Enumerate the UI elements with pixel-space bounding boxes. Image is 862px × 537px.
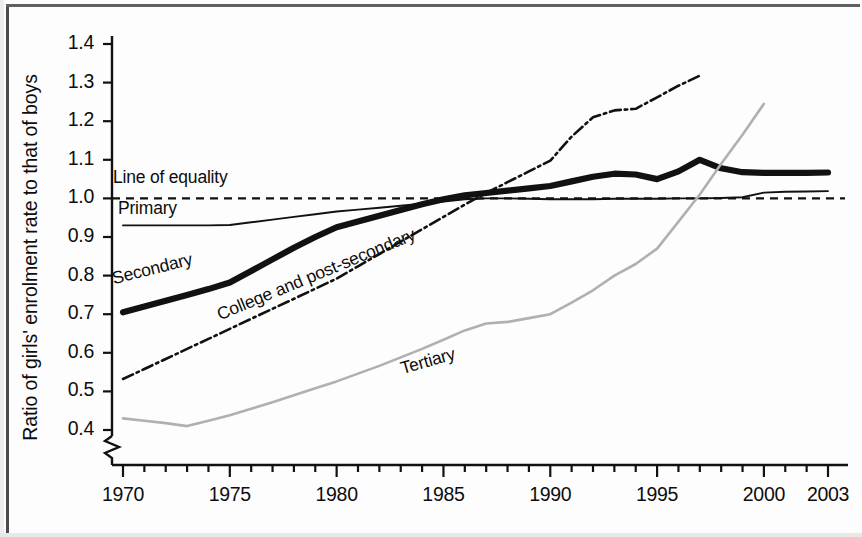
series-group [112, 76, 845, 426]
series-line-tertiary [123, 104, 764, 426]
y-axis-break-symbol [105, 436, 119, 465]
y-axis-tick-label: 0.9 [46, 224, 94, 247]
series-line-secondary [123, 160, 828, 312]
x-axis-tick-label: 1985 [408, 483, 478, 506]
x-axis-tick-label: 1970 [88, 483, 158, 506]
x-axis-tick-label: 1990 [515, 483, 585, 506]
y-axis-tick-label: 1.1 [46, 147, 94, 170]
y-axis-tick-label: 0.7 [46, 301, 94, 324]
x-axis-tick-label: 1975 [195, 483, 265, 506]
y-axis-tick-label: 1.2 [46, 108, 94, 131]
y-axis-tick-label: 1.0 [46, 185, 94, 208]
y-axis-tick-label: 1.4 [46, 31, 94, 54]
x-axis-tick-label: 1995 [622, 483, 692, 506]
chart-figure: Ratio of girls' enrolment rate to that o… [0, 0, 862, 537]
x-axis-tick-label: 2003 [793, 483, 862, 506]
annotation-line-of-equality: Line of equality [113, 167, 228, 188]
x-axis-tick-label: 2000 [729, 483, 799, 506]
y-axis-tick-label: 1.3 [46, 70, 94, 93]
axes-group [103, 36, 848, 477]
y-axis-tick-label: 0.8 [46, 263, 94, 286]
x-axis-tick-label: 1980 [302, 483, 372, 506]
y-axis-tick-label: 0.5 [46, 378, 94, 401]
annotation-primary: Primary [118, 198, 177, 219]
y-axis-tick-label: 0.6 [46, 340, 94, 363]
y-axis-tick-label: 0.4 [46, 417, 94, 440]
y-axis-title: Ratio of girls' enrolment rate to that o… [19, 48, 42, 468]
